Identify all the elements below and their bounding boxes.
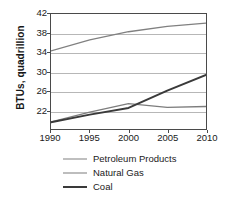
legend-item: Natural Gas [62,166,222,180]
series-line [51,75,206,122]
x-tick-label: 2010 [190,133,224,143]
y-axis-tick-labels: 222630343842 [22,0,47,199]
y-tick-label: 22 [25,106,47,116]
x-tick-label: 1995 [72,133,106,143]
x-tick-label: 1990 [33,133,67,143]
line-chart-figure: BTUs, quadrillion 222630343842 199019952… [0,0,225,199]
legend-item: Coal [62,180,222,194]
y-tick-label: 42 [25,8,47,18]
legend-label: Coal [88,182,113,192]
y-tick-label: 26 [25,86,47,96]
legend-label: Petroleum Products [88,154,176,164]
y-tick-label: 34 [25,47,47,57]
plot-area [50,13,207,130]
legend-line-icon [62,180,88,194]
legend-line-icon [62,152,88,166]
x-tick-label: 2005 [151,133,185,143]
series-lines [51,14,206,129]
x-tick-label: 2000 [112,133,146,143]
legend-line-icon [62,166,88,180]
y-tick-label: 30 [25,67,47,77]
series-line [51,104,206,122]
chart-legend: Petroleum ProductsNatural GasCoal [62,152,222,194]
legend-item: Petroleum Products [62,152,222,166]
y-tick-label: 38 [25,28,47,38]
series-line [51,23,206,51]
legend-label: Natural Gas [88,168,144,178]
